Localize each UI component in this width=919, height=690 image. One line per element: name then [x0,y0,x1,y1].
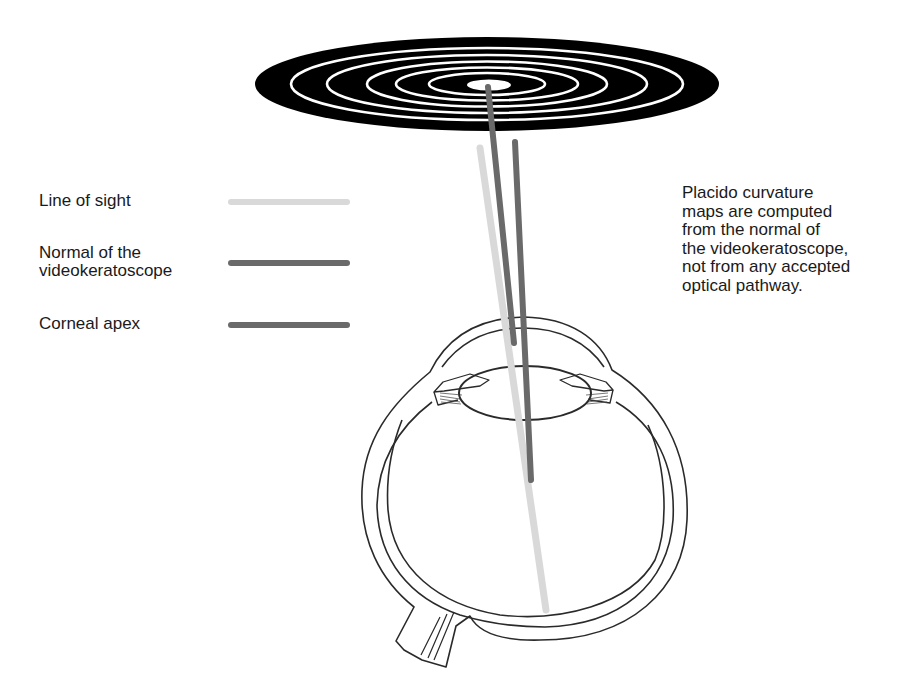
legend-label-normal-line1: Normal of the [39,244,172,262]
note-line: maps are computed [682,203,918,222]
note-line: from the normal of [682,221,918,240]
legend-label-corneal-apex: Corneal apex [39,315,140,333]
note-line: not from any accepted [682,258,918,277]
explanatory-note: Placido curvature maps are computed from… [682,184,918,296]
diagram-canvas: Line of sight Normal of the videokeratos… [0,0,919,690]
line-of-sight [480,148,546,610]
legend-swatches [231,202,347,325]
iris-left [434,374,489,392]
legend-label-normal: Normal of the videokeratoscope [39,244,172,280]
note-line: Placido curvature [682,184,918,203]
diagram-svg [0,0,919,690]
note-line: optical pathway. [682,277,918,296]
axis-lines [480,87,546,610]
legend-label-normal-line2: videokeratoscope [39,262,172,280]
legend-label-line-of-sight: Line of sight [39,192,131,210]
sclera-inner [377,402,673,627]
note-line: the videokeratoscope, [682,240,918,259]
placido-disc [255,37,719,131]
